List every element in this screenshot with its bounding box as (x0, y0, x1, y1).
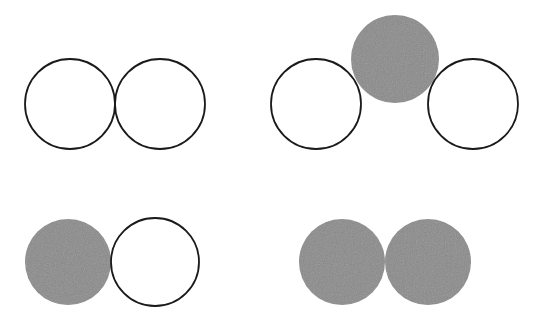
bottom-left-pair-group (25, 218, 199, 306)
outline-circle (115, 59, 205, 149)
bottom-right-pair-group (299, 219, 471, 305)
top-right-triple-group (271, 15, 518, 149)
filled-circle (385, 219, 471, 305)
outline-circle (25, 59, 115, 149)
filled-circle (25, 219, 111, 305)
outline-circle (111, 218, 199, 306)
outline-circle (428, 59, 518, 149)
filled-circle (351, 15, 439, 103)
outline-circle (271, 59, 361, 149)
filled-circle (299, 219, 385, 305)
circle-diagram (0, 0, 541, 329)
top-left-pair-group (25, 59, 205, 149)
